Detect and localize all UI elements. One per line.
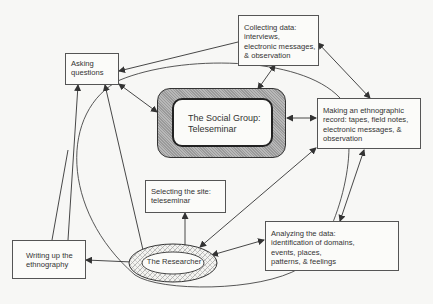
social-group-line-2: Teleseminar bbox=[188, 124, 271, 135]
node-asking-questions: Asking questions bbox=[65, 53, 119, 85]
node-text: identification of domains, bbox=[271, 238, 393, 247]
node-text: Making an ethnographic bbox=[323, 106, 415, 115]
node-selecting-site: Selecting the site: teleseminar bbox=[145, 180, 226, 213]
node-making-record: Making an ethnographic record: tapes, fi… bbox=[317, 98, 421, 149]
social-group-line-1: The Social Group: bbox=[188, 113, 271, 124]
node-collecting-data: Collecting data: interviews, electronic … bbox=[238, 15, 319, 66]
social-group-node: The Social Group: Teleseminar bbox=[172, 98, 273, 147]
node-text: interviews, bbox=[244, 32, 313, 41]
node-text: Writing up the bbox=[26, 251, 85, 260]
node-text: observation bbox=[323, 134, 415, 143]
node-text: ethnography bbox=[26, 260, 85, 269]
node-text: record: tapes, field notes, bbox=[323, 115, 415, 124]
node-text: teleseminar bbox=[151, 196, 220, 205]
node-writing-up: Writing up the ethnography bbox=[12, 240, 86, 279]
node-text: Analyzing the data: bbox=[271, 229, 393, 238]
node-text: & observation bbox=[244, 51, 313, 60]
node-text: patterns, & feelings bbox=[271, 257, 393, 266]
node-text: electronic messages, bbox=[244, 42, 313, 51]
researcher-label: The Researcher bbox=[146, 257, 202, 266]
node-analyzing-data: Analyzing the data: identification of do… bbox=[265, 221, 399, 271]
node-text: electronic messages, & bbox=[323, 125, 415, 134]
node-text: events, places, bbox=[271, 248, 393, 257]
node-text: Collecting data: bbox=[244, 23, 313, 32]
node-text: questions bbox=[71, 68, 113, 77]
node-text: Selecting the site: bbox=[151, 187, 220, 196]
node-text: Asking bbox=[71, 59, 113, 68]
